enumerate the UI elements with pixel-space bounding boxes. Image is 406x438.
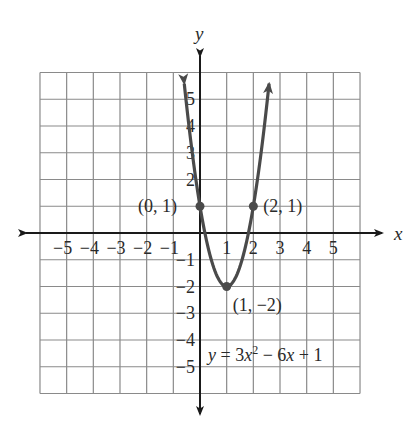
x-tick-label: 2 bbox=[249, 238, 258, 258]
x-axis-label: x bbox=[393, 223, 403, 244]
y-tick-label: −5 bbox=[176, 357, 195, 377]
y-axis-label: y bbox=[193, 23, 204, 44]
x-tick-label: 5 bbox=[329, 238, 338, 258]
point-marker bbox=[249, 202, 258, 211]
x-tick-labels: −5−4−3−2−112345 bbox=[53, 238, 338, 258]
point-marker bbox=[196, 202, 205, 211]
equation-label: y = 3x2 − 6x + 1 bbox=[206, 343, 322, 365]
x-tick-label: −5 bbox=[53, 238, 72, 258]
y-tick-label: −4 bbox=[176, 330, 195, 350]
y-tick-label: −2 bbox=[176, 277, 195, 297]
point-label: (1, −2) bbox=[233, 295, 282, 316]
point-marker bbox=[222, 282, 231, 291]
x-tick-label: −2 bbox=[133, 238, 152, 258]
x-tick-label: 3 bbox=[276, 238, 285, 258]
y-tick-label: −1 bbox=[176, 250, 195, 270]
x-tick-label: 1 bbox=[222, 238, 231, 258]
point-label: (2, 1) bbox=[263, 196, 302, 217]
coordinate-plane: x y −5−4−3−2−112345 5432−1−2−3−4−5 (0, 1… bbox=[0, 0, 406, 438]
x-tick-label: −3 bbox=[106, 238, 125, 258]
x-tick-label: −4 bbox=[80, 238, 99, 258]
x-tick-label: 4 bbox=[302, 238, 311, 258]
point-label: (0, 1) bbox=[138, 196, 177, 217]
y-tick-label: −3 bbox=[176, 303, 195, 323]
